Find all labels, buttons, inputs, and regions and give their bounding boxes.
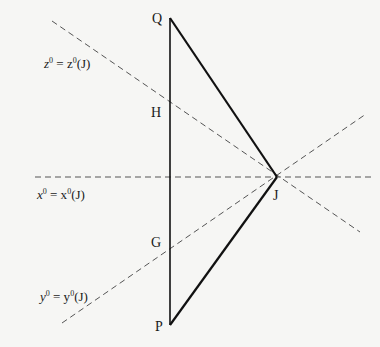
- diagram-canvas: Q H G P J z0 = z0(J) x0 = x0(J) y0 = y0(…: [0, 0, 380, 347]
- point-label-P: P: [155, 320, 163, 334]
- z0-dashed-line: [52, 21, 360, 232]
- z0-line-label: z0 = z0(J): [44, 57, 90, 70]
- segment-QJ: [170, 18, 277, 177]
- segment-JP: [170, 177, 277, 325]
- y0-line-label: y0 = y0(J): [40, 290, 88, 303]
- point-label-H: H: [151, 106, 161, 120]
- point-label-G: G: [151, 236, 161, 250]
- point-label-J: J: [273, 189, 278, 203]
- y0-dashed-line: [62, 114, 366, 323]
- x0-line-label: x0 = x0(J): [37, 188, 85, 201]
- point-label-Q: Q: [152, 12, 162, 26]
